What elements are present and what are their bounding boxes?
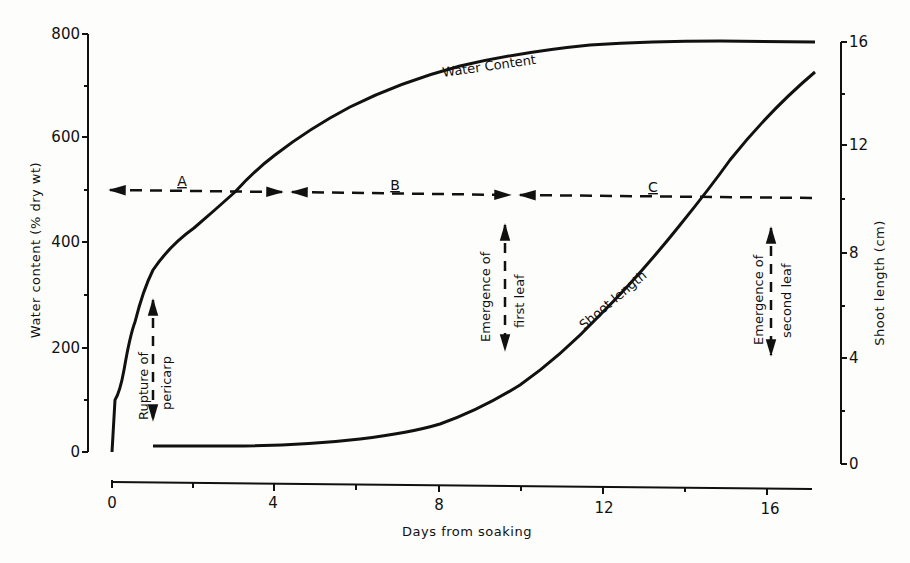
y2-tick-8: 8 <box>849 244 859 262</box>
right-y-axis: 16 12 8 4 0 Shoot length (cm) <box>841 33 887 473</box>
water-content-label: Water Content <box>441 52 536 80</box>
x-axis-title: Days from soaking <box>402 524 532 539</box>
rupture-label-line1: Rupture of <box>136 352 151 420</box>
rupture-annotation: Rupture of pericarp <box>136 300 174 420</box>
y-tick-0: 0 <box>70 443 80 461</box>
shoot-length-label: Shoot length <box>576 267 649 332</box>
y-tick-200: 200 <box>51 339 80 357</box>
y2-tick-0: 0 <box>849 455 859 473</box>
water-content-curve <box>112 41 815 452</box>
second-leaf-label-line2: second leaf <box>779 263 794 338</box>
x-tick-8: 8 <box>434 496 444 514</box>
x-tick-16: 16 <box>760 500 779 518</box>
y-tick-800: 800 <box>51 25 80 43</box>
rupture-label-line2: pericarp <box>159 356 174 410</box>
phase-markers: A B C <box>110 173 815 198</box>
phase-c-label: C <box>648 179 658 195</box>
first-leaf-annotation: Emergence of first leaf <box>478 225 527 350</box>
phase-b-label: B <box>390 177 400 193</box>
y2-tick-12: 12 <box>849 136 868 154</box>
first-leaf-label-line2: first leaf <box>512 274 527 328</box>
second-leaf-label-line1: Emergence of <box>751 254 766 345</box>
x-tick-0: 0 <box>107 494 117 512</box>
second-leaf-annotation: Emergence of second leaf <box>751 228 794 355</box>
y2-tick-16: 16 <box>849 33 868 51</box>
y-tick-600: 600 <box>51 128 80 146</box>
x-axis: 0 4 8 12 16 Days from soaking <box>107 480 812 539</box>
left-y-axis: 800 600 400 200 0 Water content (% dry w… <box>28 25 88 461</box>
x-tick-12: 12 <box>594 499 613 517</box>
first-leaf-label-line1: Emergence of <box>478 251 493 342</box>
phase-a-label: A <box>177 173 187 189</box>
x-tick-4: 4 <box>268 494 278 512</box>
y-tick-400: 400 <box>51 233 80 251</box>
y2-tick-4: 4 <box>849 349 859 367</box>
y2-axis-title: Shoot length (cm) <box>872 220 887 346</box>
y-axis-title: Water content (% dry wt) <box>28 162 43 338</box>
chart-canvas: 800 600 400 200 0 Water content (% dry w… <box>0 0 910 563</box>
